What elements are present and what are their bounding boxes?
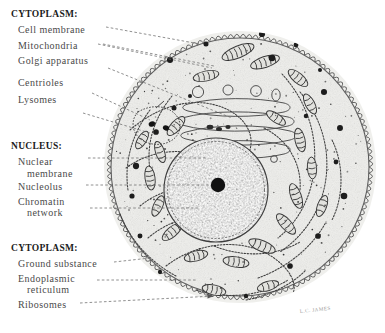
ribosome <box>246 125 248 127</box>
lysosome <box>318 68 322 72</box>
ribosome <box>154 123 155 124</box>
ribosome <box>236 90 237 91</box>
ribosome <box>275 112 277 114</box>
ribosome <box>351 115 353 117</box>
ribosome <box>358 135 359 136</box>
ribosome <box>153 199 155 201</box>
ribosome <box>148 103 150 105</box>
lysosome <box>158 270 162 274</box>
ribosome <box>311 115 313 117</box>
ribosome <box>328 169 329 170</box>
ribosome <box>153 215 154 216</box>
ribosome <box>328 193 329 194</box>
ribosome <box>274 106 276 108</box>
ribosome <box>137 111 138 112</box>
ribosome <box>285 95 287 97</box>
ribosome <box>133 194 134 195</box>
label-ribosomes-line1: Ribosomes <box>18 299 67 310</box>
ribosome <box>213 254 215 256</box>
ribosome <box>313 181 315 183</box>
label-centrioles-line1: Centrioles <box>18 77 64 88</box>
ribosome <box>328 234 330 236</box>
ribosome <box>254 149 256 151</box>
ribosome <box>319 234 321 236</box>
ribosome <box>249 58 250 59</box>
ribosome <box>147 220 148 221</box>
ribosome <box>185 75 186 76</box>
ribosome <box>161 221 163 223</box>
ribosome <box>165 88 167 90</box>
ribosome <box>209 50 211 52</box>
ribosome <box>217 125 218 126</box>
ribosome <box>360 141 361 142</box>
ribosome <box>138 124 139 125</box>
ribosome <box>128 165 129 166</box>
ribosome <box>293 232 295 234</box>
ribosome <box>276 244 277 245</box>
label-chromatin-network-line2: network <box>18 207 73 219</box>
ribosome <box>246 50 248 52</box>
lysosome <box>321 89 327 95</box>
ribosome <box>175 100 176 101</box>
cell-diagram-figure: L.C. JAMES CYTOPLASM: Cell membrane Mito… <box>0 0 385 333</box>
ribosome <box>297 201 299 203</box>
label-ribosomes: Ribosomes <box>18 299 97 311</box>
ribosome <box>271 90 272 91</box>
nucleus <box>164 138 268 242</box>
ribosome <box>309 180 311 182</box>
lysosome <box>315 233 321 239</box>
ribosome <box>145 187 146 188</box>
ribosome <box>137 131 138 132</box>
ribosome <box>191 133 193 135</box>
ribosome <box>158 97 160 99</box>
ribosome <box>324 81 326 83</box>
ribosome <box>268 98 269 99</box>
ribosome <box>166 234 168 236</box>
ribosome <box>277 103 278 104</box>
ribosome <box>345 196 346 197</box>
ribosome <box>321 242 323 244</box>
ribosome <box>136 108 137 109</box>
ribosome <box>258 144 260 146</box>
ribosome <box>236 266 237 267</box>
ribosome <box>355 163 356 164</box>
ribosome <box>152 167 153 168</box>
ribosome <box>164 148 166 150</box>
ribosome <box>324 205 326 207</box>
lysosome <box>337 125 343 131</box>
ribosome <box>177 94 178 95</box>
ribosome <box>116 151 117 152</box>
lysosome <box>153 129 159 135</box>
ribosome <box>274 145 276 147</box>
ribosome <box>290 275 291 276</box>
ribosome <box>320 187 321 188</box>
ribosome <box>164 236 165 237</box>
label-nucleolus-line1: Nucleolus <box>18 181 63 192</box>
ribosome <box>317 165 318 166</box>
ribosome <box>238 256 239 257</box>
ribosome <box>119 152 121 154</box>
ribosome <box>343 208 345 210</box>
lysosome <box>334 160 339 165</box>
heading-nucleus: NUCLEUS: <box>11 141 73 151</box>
ribosome <box>173 124 175 126</box>
ribosome <box>355 143 356 144</box>
ribosome <box>330 104 332 106</box>
ribosome <box>294 117 295 118</box>
ribosome <box>341 226 342 227</box>
label-nuclear-membrane: Nuclear membrane <box>18 156 73 179</box>
ribosome <box>128 209 130 211</box>
label-endoplasmic-reticulum: Endoplasmic reticulum <box>18 273 97 296</box>
ribosome <box>171 223 172 224</box>
ribosome <box>163 218 165 220</box>
lysosome <box>244 294 248 298</box>
ribosome <box>153 225 154 226</box>
label-group-nucleus: NUCLEUS: Nuclear membrane Nucleolus Chro… <box>11 141 73 219</box>
ribosome <box>180 104 181 105</box>
ribosome <box>224 283 225 284</box>
ribosome <box>124 201 125 202</box>
ribosome <box>303 185 304 186</box>
ribosome <box>233 70 234 71</box>
label-nucleolus: Nucleolus <box>18 181 73 193</box>
ribosome <box>151 90 153 92</box>
